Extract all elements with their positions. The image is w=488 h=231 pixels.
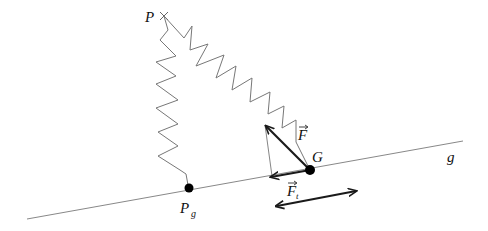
label-g-point: G (312, 149, 323, 165)
spring-p-to-pg (156, 16, 188, 185)
label-pg: P (179, 200, 189, 216)
label-line-g: g (447, 149, 455, 165)
projection-line (265, 125, 272, 176)
point-pg (185, 184, 194, 193)
label-ft-sub: t (296, 191, 299, 201)
diagram-canvas: P P g G g F F t (0, 0, 488, 231)
label-p: P (144, 9, 154, 25)
line-g (27, 141, 463, 219)
label-pg-sub: g (191, 208, 196, 219)
point-g (305, 165, 315, 175)
force-vector-ft (271, 170, 310, 177)
label-f: F (297, 127, 308, 143)
